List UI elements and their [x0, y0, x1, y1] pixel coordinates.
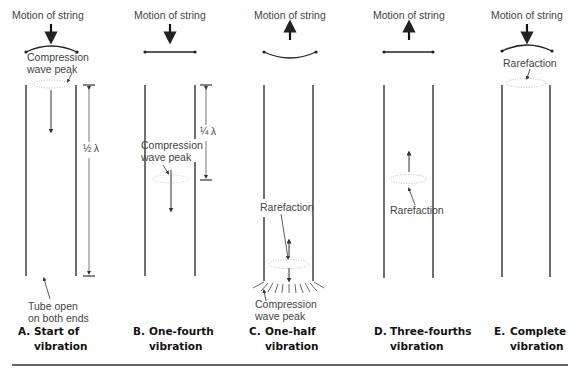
caption-line2: vibration: [249, 339, 319, 354]
motion-label-c: Motion of string: [254, 8, 326, 22]
motion-label-e: Motion of string: [491, 8, 563, 22]
caption-letter: C.: [249, 324, 265, 339]
rarefaction-label-e: Rarefaction: [503, 56, 557, 70]
compression-label-c-line2: wave peak: [255, 309, 305, 323]
rarefaction-label-d: Rarefaction: [390, 203, 444, 217]
radiating-waves: [253, 282, 324, 293]
motion-label-d: Motion of string: [373, 8, 445, 22]
motion-label-a: Motion of string: [12, 8, 84, 22]
caption-a: A.Start of vibration: [18, 324, 88, 354]
motion-label-b: Motion of string: [134, 8, 206, 22]
string-curve: [264, 52, 316, 58]
caption-line1: Three-fourths: [390, 325, 472, 337]
panel-d-drawing: [382, 26, 434, 278]
caption-e: E.Complete vibration: [494, 324, 566, 354]
caption-line1: One-half: [265, 325, 316, 337]
caption-letter: E.: [494, 324, 510, 339]
quarter-lambda-label: ¼ λ: [200, 126, 216, 137]
caption-c: C.One-half vibration: [249, 324, 319, 354]
compression-label-a-line2: wave peak: [27, 62, 77, 76]
compression-wave: [33, 80, 69, 88]
tube-label-line2: on both ends: [28, 311, 89, 325]
caption-letter: B.: [133, 324, 149, 339]
caption-d: D.Three-fourths vibration: [374, 324, 472, 354]
compression-label-b-line2: wave peak: [141, 150, 191, 164]
caption-letter: A.: [18, 324, 34, 339]
panel-c-drawing: [253, 26, 324, 301]
caption-letter: D.: [374, 324, 390, 339]
half-lambda-label: ½ λ: [83, 143, 99, 154]
caption-line2: vibration: [18, 339, 88, 354]
caption-line2: vibration: [133, 339, 214, 354]
caption-line1: One-fourth: [149, 325, 214, 337]
rarefaction-label-c: Rarefaction: [260, 200, 314, 214]
caption-line1: Complete: [510, 325, 566, 337]
caption-line2: vibration: [374, 339, 472, 354]
string-curve: [502, 45, 552, 51]
caption-b: B.One-fourth vibration: [133, 324, 214, 354]
caption-line1: Start of: [34, 325, 79, 337]
caption-line2: vibration: [494, 339, 566, 354]
